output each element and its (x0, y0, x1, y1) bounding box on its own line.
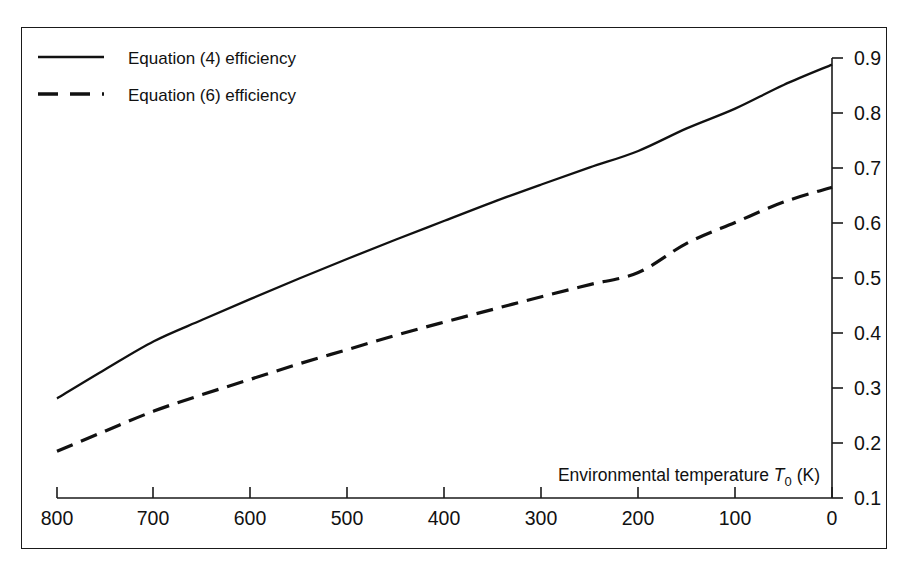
x-tick-label: 600 (234, 507, 267, 529)
x-axis-title-prefix: Environmental temperature (558, 465, 774, 485)
y-tick-label: 0.2 (854, 432, 881, 454)
y-tick-label: 0.4 (854, 322, 881, 344)
x-axis-title-suffix: (K) (792, 465, 820, 485)
axes (57, 58, 832, 498)
x-tick-label: 200 (622, 507, 655, 529)
x-axis-title: Environmental temperature T0 (K) (558, 465, 820, 489)
x-axis-title-subscript: 0 (785, 474, 792, 489)
x-tick-label: 500 (331, 507, 364, 529)
y-tick-label: 0.8 (854, 102, 881, 124)
chart-canvas: Equation (4) efficiency Equation (6) eff… (22, 28, 884, 546)
x-tick-label: 400 (428, 507, 461, 529)
y-tick-label: 0.1 (854, 487, 881, 509)
curve-equation-6 (57, 187, 832, 451)
figure-root: Equation (4) efficiency Equation (6) eff… (0, 0, 907, 576)
x-tick-label: 100 (719, 507, 752, 529)
x-tick-label: 800 (41, 507, 74, 529)
figure-border: Equation (4) efficiency Equation (6) eff… (21, 27, 887, 549)
y-tick-label: 0.9 (854, 47, 881, 69)
curve-equation-4 (57, 65, 832, 399)
y-tick-label: 0.6 (854, 212, 881, 234)
y-tick-label: 0.7 (854, 157, 881, 179)
x-tick-label: 300 (525, 507, 558, 529)
x-tick-label: 0 (827, 507, 838, 529)
x-tick-label: 700 (137, 507, 170, 529)
y-tick-group: 0.1 0.2 0.3 0.4 0.5 0.6 0.7 0.8 0.9 (832, 47, 881, 509)
legend-label-equation-6: Equation (6) efficiency (128, 86, 296, 105)
y-tick-label: 0.5 (854, 267, 881, 289)
y-tick-label: 0.3 (854, 377, 881, 399)
x-tick-group: 800 700 600 500 400 300 200 100 0 (41, 487, 838, 529)
legend-label-equation-4: Equation (4) efficiency (128, 49, 296, 68)
legend: Equation (4) efficiency Equation (6) eff… (38, 49, 296, 105)
